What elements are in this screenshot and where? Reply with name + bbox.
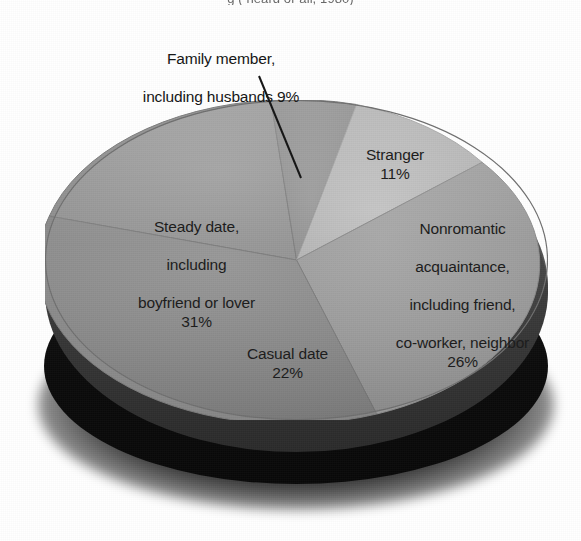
slice-label-family: Family member, including husbands 9% [96,30,346,106]
slice-value-stranger: 11% [335,164,455,183]
slice-label-nonromantic: Nonromantic acquaintance, including frie… [355,200,570,390]
slice-label-casual: Casual date 22% [205,325,370,401]
slice-label-nonromantic-line3: including friend, [409,296,515,313]
slice-label-nonromantic-line1: Nonromantic [419,220,505,237]
slice-label-family-line2: including husbands 9% [143,88,299,105]
pie-chart: Family member, including husbands 9% Str… [0,0,581,541]
slice-label-stranger: Stranger 11% [335,126,455,202]
figure-canvas: g ( heard or all, 1980) [0,0,581,541]
slice-label-steady-line1: Steady date, [154,218,239,235]
slice-value-casual: 22% [205,363,370,382]
slice-label-nonromantic-line4: co-worker, neighbor [396,334,529,351]
slice-label-steady-line2: including [167,256,227,273]
slice-label-stranger-line1: Stranger [366,146,424,163]
slice-label-casual-line1: Casual date [247,345,328,362]
slice-label-nonromantic-line2: acquaintance, [415,258,510,275]
slice-label-steady-line3: boyfriend or lover [138,294,255,311]
slice-value-nonromantic: 26% [355,352,570,371]
slice-label-family-line1: Family member, [167,50,275,67]
